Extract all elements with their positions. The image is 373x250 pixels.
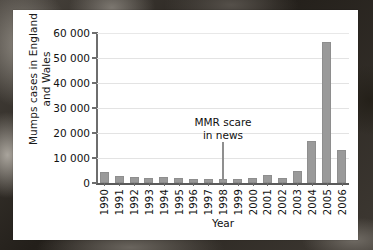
annotation-line2: in news (163, 129, 283, 142)
x-axis-tick (312, 183, 313, 186)
y-axis-title: Mumps cases in England and Wales (27, 0, 53, 159)
x-axis-tick (179, 183, 180, 186)
bar (307, 141, 316, 183)
gridline (97, 108, 349, 109)
x-axis-tick-label: 2001 (262, 189, 273, 215)
gridline (97, 83, 349, 84)
y-axis-tick (92, 157, 97, 159)
x-axis-tick-label: 1999 (233, 189, 244, 215)
y-axis-tick (92, 182, 97, 184)
plot-area: 010 00020 00030 00040 00050 00060 000 19… (97, 33, 349, 183)
x-axis-tick-label: 2004 (307, 189, 318, 215)
bar (337, 150, 346, 184)
x-axis-tick-label: 2005 (322, 189, 333, 215)
x-axis-tick (193, 183, 194, 186)
x-axis-tick-label: 1998 (218, 189, 229, 215)
bar (115, 176, 124, 183)
bar (293, 171, 302, 183)
x-axis-tick-label: 2003 (292, 189, 303, 215)
y-axis-tick (92, 32, 97, 34)
x-axis-tick-label: 2002 (277, 189, 288, 215)
x-axis-tick (327, 183, 328, 186)
y-axis-tick (92, 57, 97, 59)
x-axis-tick (104, 183, 105, 186)
y-axis-tick-label: 10 000 (53, 152, 90, 164)
x-axis-tick (342, 183, 343, 186)
x-axis-tick (267, 183, 268, 186)
annotation-line1: MMR scare (163, 116, 283, 129)
x-axis-tick-label: 1994 (159, 189, 170, 215)
x-axis-title: Year (97, 217, 349, 229)
bar (322, 42, 331, 183)
x-axis-tick-label: 1992 (129, 189, 140, 215)
x-axis-tick-label: 2006 (337, 189, 348, 215)
x-axis-tick (149, 183, 150, 186)
y-axis-tick-label: 30 000 (53, 102, 90, 114)
x-axis-tick-label: 1991 (114, 189, 125, 215)
y-axis-tick-label: 40 000 (53, 77, 90, 89)
x-axis-tick (282, 183, 283, 186)
x-axis-tick-label: 1997 (203, 189, 214, 215)
bar (263, 175, 272, 183)
x-axis-tick-label: 1996 (188, 189, 199, 215)
x-axis-tick (134, 183, 135, 186)
x-axis-tick-label: 2000 (248, 189, 259, 215)
annotation-mmr-scare: MMR scare in news (163, 116, 283, 141)
y-axis-tick (92, 82, 97, 84)
x-axis-tick (223, 183, 224, 186)
y-axis-tick-label: 60 000 (53, 27, 90, 39)
y-axis-tick (92, 107, 97, 109)
y-axis-tick-label: 50 000 (53, 52, 90, 64)
y-axis-title-line1: Mumps cases in England (27, 0, 40, 159)
x-axis-tick (238, 183, 239, 186)
chart-card: Mumps cases in England and Wales 010 000… (13, 10, 358, 240)
x-axis-tick (208, 183, 209, 186)
x-axis-tick-label: 1990 (99, 189, 110, 215)
x-axis-tick-label: 1995 (174, 189, 185, 215)
x-axis-tick (119, 183, 120, 186)
y-axis-tick (92, 132, 97, 134)
bar (100, 172, 109, 183)
y-axis-tick-label: 20 000 (53, 127, 90, 139)
x-axis-tick (164, 183, 165, 186)
gridline (97, 58, 349, 59)
figure-root: Mumps cases in England and Wales 010 000… (0, 0, 373, 250)
x-axis-tick (253, 183, 254, 186)
x-axis-tick-label: 1993 (144, 189, 155, 215)
x-axis-tick (297, 183, 298, 186)
y-axis-title-line2: and Wales (40, 0, 53, 159)
y-axis-tick-label: 0 (83, 177, 90, 189)
annotation-pointer-line (222, 142, 224, 179)
gridline (97, 33, 349, 34)
